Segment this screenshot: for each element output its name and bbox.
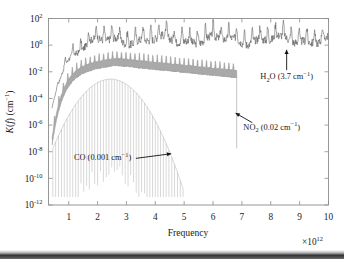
x-tick-label: 10	[324, 212, 334, 222]
x-tick-label: 9	[297, 212, 302, 222]
y-tick-exponent: 0	[39, 38, 42, 45]
y-tick-exponent: -2	[37, 65, 42, 72]
atmospheric-absorption-chart: 12345678910 10210010-210-410-610-810-101…	[0, 0, 344, 259]
x-tick-label: 6	[211, 212, 216, 222]
x-axis-label: Frequency	[168, 227, 209, 238]
x-tick-label: 5	[182, 212, 187, 222]
x-tick-label: 1	[66, 212, 71, 222]
x-tick-label: 8	[268, 212, 273, 222]
x-tick-label: 7	[240, 212, 245, 222]
y-tick-exponent: 2	[39, 12, 42, 19]
page-edge-artifact	[0, 250, 344, 259]
x-tick-label: 3	[124, 212, 129, 222]
y-tick-exponent: -4	[37, 92, 43, 99]
x-tick-label: 2	[95, 212, 100, 222]
y-tick-exponent: -6	[37, 118, 42, 125]
spectral-absorption-figure: 12345678910 10210010-210-410-610-810-101…	[0, 0, 344, 259]
y-tick-exponent: -8	[37, 145, 42, 152]
y-tick-exponent: -10	[34, 172, 43, 179]
y-tick-exponent: -12	[34, 198, 43, 205]
x-tick-label: 4	[153, 212, 158, 222]
x-exponent-sup: 12	[317, 235, 323, 242]
